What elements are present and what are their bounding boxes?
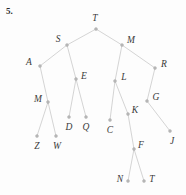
tree-edge — [122, 45, 155, 68]
tree-edge — [76, 79, 86, 117]
tree-node-dot — [146, 100, 149, 103]
tree-edge — [128, 149, 134, 181]
tree-edge — [147, 101, 170, 131]
tree-node-label: M — [34, 95, 42, 105]
tree-node-label: G — [153, 93, 160, 103]
tree-edge — [69, 79, 76, 117]
tree-node-label: F — [138, 141, 144, 151]
tree-node-label: R — [161, 60, 167, 70]
tree-edge — [48, 102, 56, 136]
tree-node-dot — [169, 130, 172, 133]
tree-node-dot — [47, 101, 50, 104]
tree-node-label: T — [149, 175, 154, 185]
tree-node-dot — [55, 135, 58, 138]
tree-node-label: W — [53, 142, 61, 152]
tree-node-dot — [66, 44, 69, 47]
tree-node-label: T — [92, 14, 97, 24]
tree-edge — [67, 29, 96, 45]
tree-edge — [40, 45, 67, 66]
tree-node-dot — [133, 148, 136, 151]
tree-edge — [96, 29, 122, 45]
tree-node-label: A — [26, 58, 32, 68]
tree-node-dot — [127, 180, 130, 183]
tree-edge — [128, 114, 134, 149]
tree-node-dot — [109, 119, 112, 122]
tree-node-label: S — [56, 35, 61, 45]
tree-edge — [37, 102, 48, 136]
tree-node-dot — [154, 67, 157, 70]
tree-node-dot — [75, 78, 78, 81]
tree-edge — [67, 45, 76, 79]
nodes-group — [36, 28, 172, 183]
tree-node-label: E — [81, 72, 87, 82]
tree-node-label: Q — [83, 123, 90, 133]
tree-node-dot — [95, 28, 98, 31]
tree-node-dot — [114, 80, 117, 83]
tree-edge — [134, 149, 144, 181]
tree-node-dot — [39, 65, 42, 68]
tree-node-label: C — [107, 126, 113, 136]
tree-node-label: J — [170, 137, 174, 147]
tree-node-dot — [121, 44, 124, 47]
tree-node-dot — [36, 135, 39, 138]
tree-node-dot — [68, 116, 71, 119]
tree-node-label: N — [117, 175, 123, 185]
tree-node-label: K — [132, 106, 138, 116]
tree-node-dot — [127, 113, 130, 116]
tree-node-dot — [143, 180, 146, 183]
tree-node-dot — [85, 116, 88, 119]
tree-edge — [115, 81, 128, 114]
tree-node-label: M — [127, 36, 135, 46]
tree-node-label: Z — [34, 142, 39, 152]
edges-group — [37, 29, 170, 181]
tree-node-label: D — [66, 123, 73, 133]
tree-edge — [110, 81, 115, 120]
tree-figure: 5. TSMAELRMGDQCKZWJFNT — [0, 0, 186, 195]
tree-node-label: L — [121, 73, 126, 83]
